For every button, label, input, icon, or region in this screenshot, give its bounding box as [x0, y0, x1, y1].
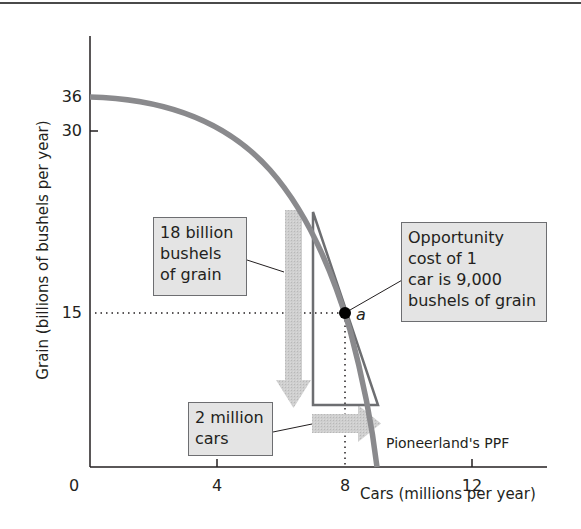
cars-box-line-2: cars	[195, 428, 266, 449]
cost-box-line-1: Opportunity	[408, 227, 540, 248]
cost-box-line-3: car is 9,000	[408, 269, 540, 290]
grain-annotation-box: 18 billion bushels of grain	[153, 217, 247, 296]
cars-box-leader	[273, 424, 312, 432]
y-tick-label-36: 36	[42, 89, 82, 105]
x-tick-label-4: 4	[202, 478, 232, 494]
x-tick-label-8: 8	[330, 478, 360, 494]
grain-decrease-arrow	[276, 210, 311, 408]
x-axis-label: Cars (millions per year)	[360, 485, 536, 503]
point-a-label: a	[356, 305, 366, 324]
grain-box-leader	[247, 260, 284, 272]
y-axis-label: Grain (billions of bushels per year)	[34, 120, 52, 379]
opportunity-cost-box: Opportunity cost of 1 car is 9,000 bushe…	[401, 222, 547, 322]
cost-box-line-2: cost of 1	[408, 248, 540, 269]
grain-box-line-2: bushels	[160, 243, 240, 264]
grain-box-line-1: 18 billion	[160, 222, 240, 243]
point-a	[339, 307, 351, 319]
ppf-curve-label: Pioneerland's PPF	[386, 435, 509, 451]
cost-box-line-4: bushels of grain	[408, 290, 540, 311]
cars-box-line-1: 2 million	[195, 407, 266, 428]
grain-box-line-3: of grain	[160, 264, 240, 285]
cars-annotation-box: 2 million cars	[188, 402, 273, 456]
x-tick-label-0: 0	[59, 478, 89, 494]
